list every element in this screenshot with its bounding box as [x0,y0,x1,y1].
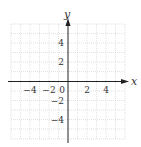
y-axis-label: y [63,8,71,21]
x-tick-label: 4 [103,85,109,95]
x-tick-label: 2 [84,85,90,95]
origin-label: 0 [59,85,65,95]
x-axis-label: x [131,75,138,88]
y-axis [66,18,71,143]
y-tick-label: 2 [58,57,64,67]
coordinate-plane: x y −4 −2 0 2 4 4 2 −2 −4 [0,0,141,147]
y-tick-label: −4 [51,115,65,125]
x-tick-label: −2 [42,85,55,95]
y-tick-label: 4 [58,38,64,48]
x-tick-label: −4 [23,85,37,95]
y-tick-label: −2 [51,96,64,106]
x-axis-arrow-icon [121,79,129,84]
